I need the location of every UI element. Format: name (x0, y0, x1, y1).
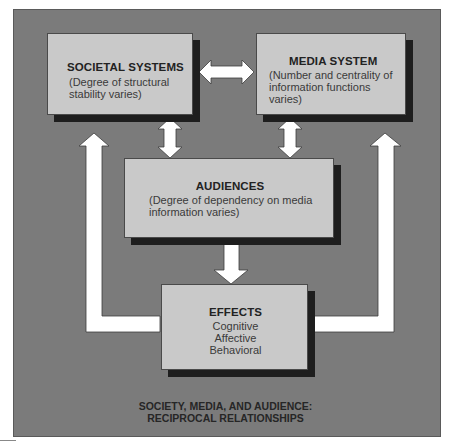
node-audiences: AUDIENCES (Degree of dependency on media… (124, 158, 334, 238)
node-desc-line: (Degree of dependency on media (149, 194, 312, 207)
double-arrow-media-audiences (278, 118, 302, 158)
node-desc-line: information functions (269, 81, 371, 94)
effect-item-affective: Affective (162, 332, 309, 345)
node-effects: EFFECTS Cognitive Affective Behavioral (161, 284, 308, 370)
node-desc-line: information varies) (149, 206, 239, 219)
node-desc-line: (Degree of structural (69, 76, 169, 89)
node-desc-line: stability varies) (69, 88, 142, 101)
page-edge-line (0, 440, 16, 441)
node-title: AUDIENCES (125, 180, 335, 192)
node-desc-line: (Number and centrality of (269, 69, 393, 82)
arrow-audiences-effects (214, 243, 248, 284)
node-title: EFFECTS (162, 306, 309, 318)
effect-item-cognitive: Cognitive (162, 320, 309, 333)
effect-item-behavioral: Behavioral (162, 344, 309, 357)
double-arrow-societal-audiences (158, 118, 182, 158)
diagram-title-line2: RECIPROCAL RELATIONSHIPS (0, 412, 451, 424)
node-desc-line: varies) (269, 93, 302, 106)
double-arrow-societal-media (199, 60, 254, 84)
node-media-system: MEDIA SYSTEM (Number and centrality of i… (256, 33, 406, 115)
node-societal-systems: SOCIETAL SYSTEMS (Degree of structural s… (47, 33, 193, 115)
node-title: MEDIA SYSTEM (289, 55, 377, 67)
node-title: SOCIETAL SYSTEMS (67, 61, 184, 73)
diagram-title-line1: SOCIETY, MEDIA, AND AUDIENCE: (0, 400, 451, 412)
